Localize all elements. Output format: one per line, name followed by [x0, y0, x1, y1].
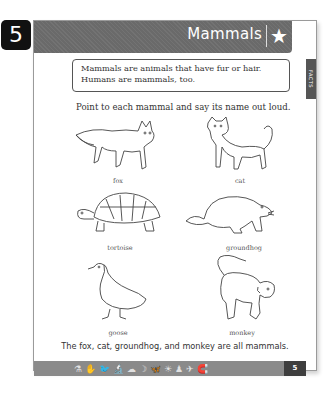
- butterfly-icon: 🦋: [150, 364, 161, 374]
- hand-icon: ✋: [85, 364, 96, 374]
- cloud-icon: ☁: [127, 364, 136, 374]
- animal-label-fox: fox: [88, 177, 148, 185]
- animal-label-tortoise: tortoise: [90, 244, 150, 252]
- page-header: Mammals ★: [34, 21, 292, 53]
- test-tube-icon: ⚗: [74, 364, 82, 374]
- figure-icon: ♟: [175, 364, 183, 374]
- fact-line-2: Humans are mammals, too.: [81, 74, 281, 85]
- bird-icon: 🐦: [99, 364, 110, 374]
- animal-label-goose: goose: [88, 329, 148, 337]
- monkey-illustration: [194, 253, 280, 327]
- tortoise-illustration: [74, 189, 166, 239]
- goose-illustration: [84, 259, 156, 323]
- instruction-text: Point to each mammal and say its name ou…: [76, 102, 290, 112]
- magnet-icon: 🧲: [197, 364, 208, 374]
- plane-icon: ✈: [186, 364, 194, 374]
- workbook-page: Mammals ★ FACTS Mammals are animals that…: [33, 20, 317, 371]
- fact-line-1: Mammals are animals that have fur or hai…: [81, 63, 281, 74]
- footer-strip: ⚗ ✋ 🐦 🔬 ☁ ☽ 🦋 ☀ ♟ ✈ 🧲: [34, 361, 284, 376]
- fact-box: Mammals are animals that have fur or hai…: [72, 59, 290, 92]
- page-number: 5: [284, 361, 306, 376]
- animal-label-monkey: monkey: [212, 329, 272, 337]
- animal-label-groundhog: groundhog: [214, 244, 274, 252]
- sun-icon: ☀: [164, 364, 172, 374]
- lesson-number-badge: 5: [1, 20, 31, 50]
- moon-icon: ☽: [139, 364, 147, 374]
- groundhog-illustration: [184, 193, 276, 239]
- star-icon: ★: [270, 22, 288, 50]
- microscope-icon: 🔬: [113, 364, 124, 374]
- cat-illustration: [202, 117, 282, 179]
- summary-text: The fox, cat, groundhog, and monkey are …: [34, 341, 316, 351]
- header-divider: [266, 25, 267, 47]
- fox-illustration: [72, 117, 164, 179]
- facts-tab[interactable]: FACTS: [306, 59, 316, 99]
- animal-label-cat: cat: [210, 177, 270, 185]
- page-title: Mammals: [187, 25, 262, 43]
- footer-icon-strip: ⚗ ✋ 🐦 🔬 ☁ ☽ 🦋 ☀ ♟ ✈ 🧲: [74, 361, 208, 376]
